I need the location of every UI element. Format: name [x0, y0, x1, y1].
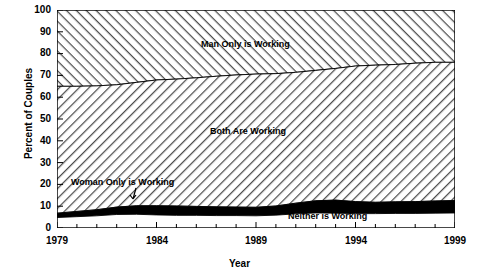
x-tick-label: 1999 — [425, 236, 479, 246]
y-tick-label: 100 — [25, 5, 51, 15]
x-tick-label: 1979 — [27, 236, 87, 246]
area-band — [57, 62, 455, 213]
x-axis-title: Year — [0, 258, 479, 269]
x-tick-label: 1984 — [127, 236, 187, 246]
y-tick-label: 90 — [25, 27, 51, 37]
y-tick-label: 80 — [25, 48, 51, 58]
y-tick-label: 30 — [25, 158, 51, 168]
annotation-woman-only: Woman Only is Working — [71, 177, 174, 187]
x-tick-label: 1994 — [326, 236, 386, 246]
y-tick-label: 0 — [25, 223, 51, 233]
y-tick-label: 40 — [25, 136, 51, 146]
y-tick-label: 10 — [25, 201, 51, 211]
y-tick-label: 60 — [25, 92, 51, 102]
annotation-both: Both Are Working — [210, 126, 286, 136]
y-tick-label: 50 — [25, 114, 51, 124]
annotation-neither: Neither is Working — [288, 211, 367, 221]
employment-status-area-chart: Percent of Couples 100 90 80 70 60 50 40… — [0, 0, 479, 279]
x-tick-label: 1989 — [226, 236, 286, 246]
y-tick-label: 70 — [25, 70, 51, 80]
y-tick-label: 20 — [25, 179, 51, 189]
annotation-man-only: Man Only is Working — [201, 39, 290, 49]
